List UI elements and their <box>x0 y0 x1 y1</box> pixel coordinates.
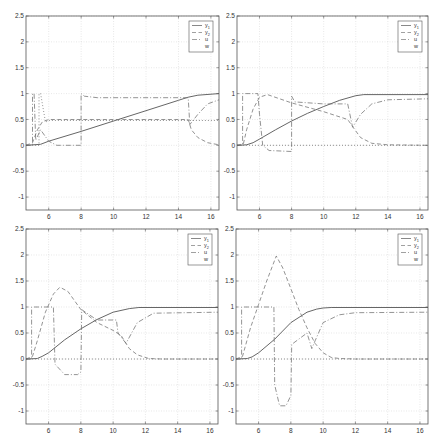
y-tick-label: 1 <box>231 90 235 97</box>
figure-canvas: 6810121416-1-0.500.511.522.5y1y2uw 68101… <box>0 0 442 444</box>
legend-label: u <box>205 36 208 42</box>
x-tick-label: 8 <box>290 213 294 220</box>
y-tick-label: 0.5 <box>15 116 24 123</box>
legend-label: u <box>414 249 417 255</box>
y-tick-label: 2 <box>231 38 235 45</box>
y-tick-label: 1 <box>230 303 234 310</box>
x-tick-label: 14 <box>384 213 392 220</box>
x-tick-label: 12 <box>352 213 360 220</box>
y-tick-label: 1 <box>20 303 24 310</box>
y-tick-label: 0 <box>231 142 235 149</box>
y-tick-label: -1 <box>18 193 24 200</box>
x-tick-label: 12 <box>142 427 150 434</box>
plot-top-right: 6810121416-1-0.500.511.522.5y1y2uw <box>224 12 428 220</box>
y-tick-label: 2.5 <box>226 12 235 19</box>
y-tick-label: 0.5 <box>15 329 24 336</box>
y-tick-label: 1.5 <box>15 64 24 71</box>
y-tick-label: 1.5 <box>15 277 24 284</box>
y-tick-label: 2.5 <box>15 12 24 19</box>
x-tick-label: 8 <box>79 427 83 434</box>
y-tick-label: 2 <box>20 251 24 258</box>
y-tick-label: -0.5 <box>13 381 25 388</box>
y-tick-label: 1.5 <box>225 277 234 284</box>
y-tick-label: 2 <box>230 251 234 258</box>
x-tick-label: 12 <box>352 427 360 434</box>
legend: y1y2uw <box>398 21 422 52</box>
legend-label: u <box>204 249 207 255</box>
y-tick-label: 0.5 <box>225 329 234 336</box>
x-tick-label: 6 <box>258 213 262 220</box>
x-tick-label: 6 <box>47 427 51 434</box>
legend: y1y2uw <box>189 21 213 52</box>
legend-label: w <box>413 256 418 262</box>
y-tick-label: 1.5 <box>226 64 235 71</box>
x-tick-label: 14 <box>174 427 182 434</box>
y-tick-label: -0.5 <box>223 381 235 388</box>
x-tick-label: 10 <box>110 427 118 434</box>
y-tick-label: 0.5 <box>226 116 235 123</box>
x-tick-label: 16 <box>207 213 215 220</box>
legend: y1y2uw <box>188 234 212 265</box>
x-tick-label: 10 <box>320 213 328 220</box>
y-tick-label: -0.5 <box>13 167 25 174</box>
x-tick-label: 16 <box>416 427 424 434</box>
y-tick-label: 2 <box>20 38 24 45</box>
x-tick-label: 6 <box>257 427 261 434</box>
y-tick-label: 2.5 <box>15 225 24 232</box>
legend-label: u <box>414 36 417 42</box>
y-tick-label: 0 <box>230 355 234 362</box>
y-tick-label: -1 <box>228 407 234 414</box>
plot-bottom-right: 6810121416-1-0.500.511.522.5y1y2uw <box>223 225 428 434</box>
x-tick-label: 6 <box>47 213 51 220</box>
plot-bottom-left: 6810121416-1-0.500.511.522.5y1y2uw <box>13 225 218 434</box>
x-tick-label: 10 <box>320 427 328 434</box>
y-tick-label: 0 <box>20 142 24 149</box>
x-tick-label: 16 <box>206 427 214 434</box>
y-tick-label: 1 <box>20 90 24 97</box>
legend-label: w <box>203 256 208 262</box>
y-tick-label: -0.5 <box>224 167 236 174</box>
x-tick-label: 10 <box>110 213 118 220</box>
y-tick-label: -1 <box>229 193 235 200</box>
x-tick-label: 8 <box>79 213 83 220</box>
legend: y1y2uw <box>398 234 422 265</box>
x-tick-label: 14 <box>175 213 183 220</box>
y-tick-label: 0 <box>20 355 24 362</box>
legend-label: w <box>413 43 418 49</box>
y-tick-label: -1 <box>18 407 24 414</box>
y-tick-label: 2.5 <box>225 225 234 232</box>
x-tick-label: 8 <box>289 427 293 434</box>
x-tick-label: 12 <box>142 213 150 220</box>
legend-label: w <box>204 43 209 49</box>
x-tick-label: 14 <box>384 427 392 434</box>
x-tick-label: 16 <box>416 213 424 220</box>
plot-top-left: 6810121416-1-0.500.511.522.5y1y2uw <box>13 12 219 220</box>
